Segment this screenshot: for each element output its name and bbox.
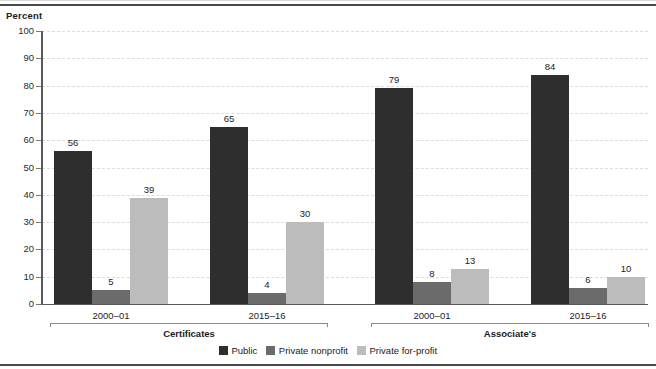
y-axis-tick-label: 90 <box>0 52 34 63</box>
chart-legend: PublicPrivate nonprofitPrivate for-profi… <box>0 345 656 356</box>
bar <box>531 75 569 304</box>
legend-swatch-icon <box>357 346 366 355</box>
bar-value-label: 4 <box>242 279 292 290</box>
clipped-figure-title <box>0 0 656 1</box>
bottom-rule <box>0 364 656 366</box>
y-axis-tick-label: 0 <box>0 298 34 309</box>
legend-swatch-icon <box>219 346 228 355</box>
bar-value-label: 6 <box>563 274 613 285</box>
bar-value-label: 39 <box>124 184 174 195</box>
y-axis-title: Percent <box>6 10 42 21</box>
chart-figure: Percent 1009080706050403020100 565396543… <box>0 0 656 369</box>
bars-layer: 56539654307981384610 <box>42 31 648 304</box>
bar-value-label: 30 <box>280 208 330 219</box>
x-axis-category-label: 2000–01 <box>382 310 482 321</box>
bar <box>92 290 130 304</box>
bar-value-label: 56 <box>48 137 98 148</box>
x-axis-category-label: 2015–16 <box>538 310 638 321</box>
legend-label: Public <box>231 345 257 356</box>
bar-value-label: 13 <box>445 255 495 266</box>
y-axis-tick-label: 30 <box>0 216 34 227</box>
bar <box>413 282 451 304</box>
y-axis-tick-label: 70 <box>0 107 34 118</box>
x-axis-category-label: 2000–01 <box>61 310 161 321</box>
y-axis-tick-label: 10 <box>0 271 34 282</box>
bar <box>210 127 248 304</box>
y-axis-tick-label: 40 <box>0 189 34 200</box>
x-axis-group-label: Certificates <box>119 328 259 339</box>
legend-swatch-icon <box>266 346 275 355</box>
top-rule <box>0 4 656 6</box>
y-axis-tick-label: 60 <box>0 134 34 145</box>
bar <box>130 198 168 304</box>
bar-value-label: 65 <box>204 113 254 124</box>
bar-value-label: 10 <box>601 263 651 274</box>
legend-label: Private for-profit <box>369 345 437 356</box>
bar-value-label: 84 <box>525 61 575 72</box>
y-axis-labels: 1009080706050403020100 <box>0 31 34 304</box>
bar <box>607 277 645 304</box>
bar <box>451 269 489 304</box>
bar <box>569 288 607 304</box>
y-axis-tick-label: 20 <box>0 243 34 254</box>
bar-value-label: 79 <box>369 74 419 85</box>
legend-item[interactable]: Private nonprofit <box>266 345 348 356</box>
legend-item[interactable]: Private for-profit <box>357 345 437 356</box>
group-bracket <box>50 323 328 324</box>
bar <box>248 293 286 304</box>
legend-item[interactable]: Public <box>219 345 257 356</box>
bar-value-label: 5 <box>86 276 136 287</box>
y-axis-tick-label: 50 <box>0 162 34 173</box>
group-bracket <box>371 323 649 324</box>
x-axis-category-label: 2015–16 <box>217 310 317 321</box>
y-axis-tick-label: 80 <box>0 80 34 91</box>
x-axis-group-label: Associate's <box>440 328 580 339</box>
y-axis-tick-label: 100 <box>0 25 34 36</box>
bar-value-label: 8 <box>407 268 457 279</box>
bar <box>286 222 324 304</box>
legend-label: Private nonprofit <box>279 345 348 356</box>
